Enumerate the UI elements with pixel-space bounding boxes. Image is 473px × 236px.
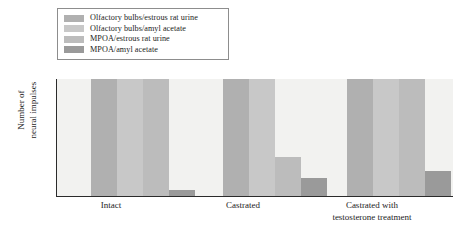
x-axis-line — [56, 196, 453, 197]
legend-swatch-icon — [64, 46, 84, 53]
bar-group-castrated-testosterone — [347, 79, 451, 197]
bar — [117, 79, 143, 197]
bar — [301, 178, 327, 197]
bar — [425, 171, 451, 197]
bar — [143, 79, 169, 197]
category-label-line: Intact — [61, 200, 161, 212]
bar — [223, 79, 249, 197]
legend-item: MPOA/amyl acetate — [64, 45, 223, 56]
category-label-line: Castrated — [193, 200, 293, 212]
legend-item: MPOA/estrous rat urine — [64, 34, 223, 45]
legend-item-label: MPOA/amyl acetate — [90, 45, 158, 56]
x-axis-category-label-castrated-testosterone: Castrated with testosterone treatment — [292, 200, 452, 223]
y-axis-line — [56, 79, 57, 197]
y-axis-label-line-1: Number of — [16, 58, 28, 162]
bar — [249, 79, 275, 197]
bar-chart-figure: Olfactory bulbs/estrous rat urine Olfact… — [0, 0, 473, 236]
legend-swatch-icon — [64, 15, 84, 22]
category-label-line: Castrated with — [292, 200, 452, 212]
bar — [373, 79, 399, 197]
bar — [399, 79, 425, 197]
legend-swatch-icon — [64, 36, 84, 43]
bar-group-castrated — [223, 79, 327, 197]
legend-item: Olfactory bulbs/estrous rat urine — [64, 13, 223, 24]
legend-item-label: Olfactory bulbs/estrous rat urine — [90, 13, 198, 24]
y-axis-label-line-2: neural impulses — [28, 58, 40, 162]
x-axis-category-label-intact: Intact — [61, 200, 161, 212]
bars-container — [57, 79, 453, 197]
legend-item: Olfactory bulbs/amyl acetate — [64, 24, 223, 35]
legend-item-label: Olfactory bulbs/amyl acetate — [90, 24, 186, 35]
legend-swatch-icon — [64, 25, 84, 32]
bar-group-intact — [91, 79, 195, 197]
y-axis-label: Number of neural impulses — [16, 58, 44, 162]
category-label-line: testosterone treatment — [292, 212, 452, 224]
bar — [275, 157, 301, 197]
bar — [347, 79, 373, 197]
x-axis-category-label-castrated: Castrated — [193, 200, 293, 212]
bar — [91, 79, 117, 197]
chart-legend: Olfactory bulbs/estrous rat urine Olfact… — [57, 8, 229, 60]
legend-item-label: MPOA/estrous rat urine — [90, 34, 170, 45]
